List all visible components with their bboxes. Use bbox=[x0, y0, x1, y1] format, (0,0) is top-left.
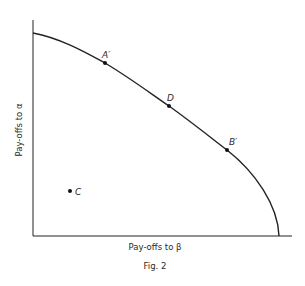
point-a-prime-label: A′ bbox=[101, 50, 110, 60]
point-d bbox=[167, 104, 171, 108]
payoff-diagram: A′ D B′ C Pay-offs to β Pay-offs to α Fi… bbox=[0, 0, 305, 286]
point-b-prime-label: B′ bbox=[229, 137, 237, 147]
figure-caption: Fig. 2 bbox=[144, 261, 167, 271]
point-a-prime bbox=[103, 61, 107, 65]
payoff-frontier-curve bbox=[33, 33, 279, 236]
point-c bbox=[68, 189, 72, 193]
y-axis-label: Pay-offs to α bbox=[14, 103, 24, 156]
point-c-label: C bbox=[75, 187, 82, 197]
x-axis-label: Pay-offs to β bbox=[129, 242, 182, 252]
point-d-label: D bbox=[167, 93, 174, 103]
point-b-prime bbox=[225, 148, 229, 152]
